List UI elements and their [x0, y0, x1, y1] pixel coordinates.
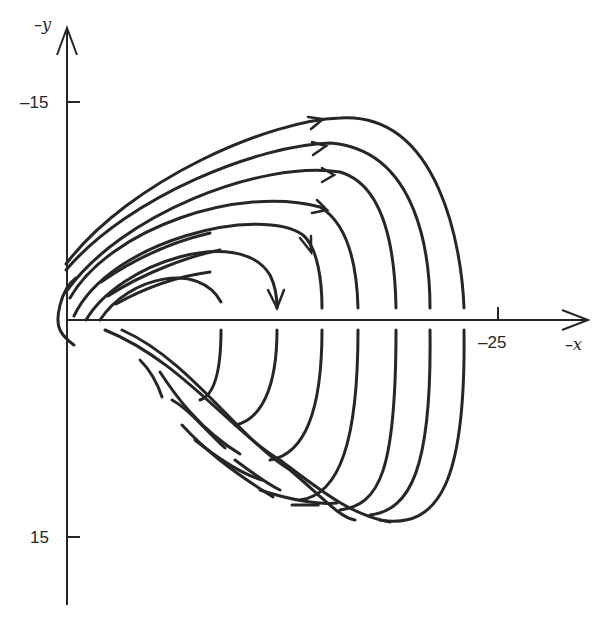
lower-trajectories	[105, 330, 464, 522]
y-tick-label-top: –15	[20, 93, 48, 112]
x-axis-label: –x	[565, 335, 582, 354]
x-axis	[67, 307, 588, 330]
upper-trajectories	[66, 118, 464, 320]
y-tick-label-bottom: 15	[30, 528, 49, 547]
x-tick-label: –25	[478, 333, 506, 352]
phase-portrait-plot: –y –x –15 15 –25	[0, 0, 607, 621]
y-axis-label: –y	[34, 15, 52, 34]
y-axis	[57, 28, 80, 605]
